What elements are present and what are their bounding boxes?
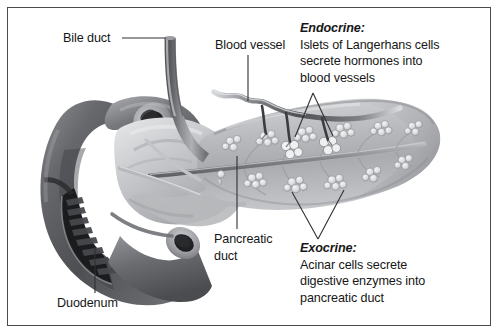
label-blood-vessel: Blood vessel [215, 37, 285, 54]
callout-endocrine-line-1: Islets of Langerhans cells [300, 37, 440, 54]
label-bile-duct: Bile duct [63, 30, 110, 47]
figure-canvas: Bile duct Blood vessel Pancreatic duct D… [0, 0, 499, 334]
callout-endocrine-line-2: secrete hormones into [300, 53, 440, 70]
callout-exocrine-heading: Exocrine: [300, 240, 425, 257]
callout-endocrine: Endocrine: Islets of Langerhans cells se… [300, 20, 440, 86]
label-pancreatic-duct-line2: duct [214, 248, 273, 265]
callout-exocrine: Exocrine: Acinar cells secrete digestive… [300, 240, 425, 306]
callout-exocrine-line-2: digestive enzymes into [300, 273, 425, 290]
callout-endocrine-line-3: blood vessels [300, 70, 440, 87]
callout-exocrine-line-3: pancreatic duct [300, 290, 425, 307]
callout-exocrine-line-1: Acinar cells secrete [300, 257, 425, 274]
label-duodenum: Duodenum [57, 295, 118, 312]
label-pancreatic-duct-line1: Pancreatic [214, 231, 273, 248]
callout-endocrine-heading: Endocrine: [300, 20, 440, 37]
label-pancreatic-duct: Pancreatic duct [214, 231, 273, 264]
